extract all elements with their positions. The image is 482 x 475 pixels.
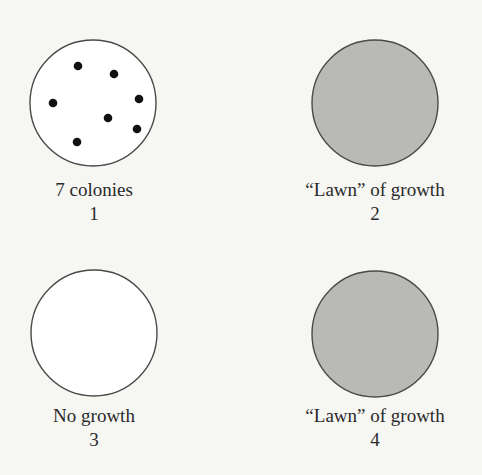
plate-1 [30,40,156,166]
plate-1-caption: 7 colonies [0,178,194,202]
colony-dot [49,99,58,108]
petri-dish-4 [312,271,438,397]
plate-3-caption-block: No growth 3 [0,404,194,452]
plate-3 [31,270,157,396]
plate-4 [312,271,438,397]
plate-2-caption-block: “Lawn” of growth 2 [275,178,475,226]
colony-dot [73,138,82,147]
colony-dot [110,70,119,79]
petri-dish-2 [312,40,438,166]
plate-2 [312,40,438,166]
plate-4-caption-block: “Lawn” of growth 4 [275,404,475,452]
plate-4-caption: “Lawn” of growth [275,404,475,428]
plate-3-number: 3 [0,428,194,452]
plate-4-number: 4 [275,428,475,452]
colony-dot [104,114,113,123]
petri-dish-3 [31,270,157,396]
plate-1-caption-block: 7 colonies 1 [0,178,194,226]
colony-dot [74,62,83,71]
plate-3-caption: No growth [0,404,194,428]
colony-dot [133,125,142,134]
colony-dot [135,95,144,104]
plate-2-caption: “Lawn” of growth [275,178,475,202]
plate-2-number: 2 [275,202,475,226]
plate-1-number: 1 [0,202,194,226]
